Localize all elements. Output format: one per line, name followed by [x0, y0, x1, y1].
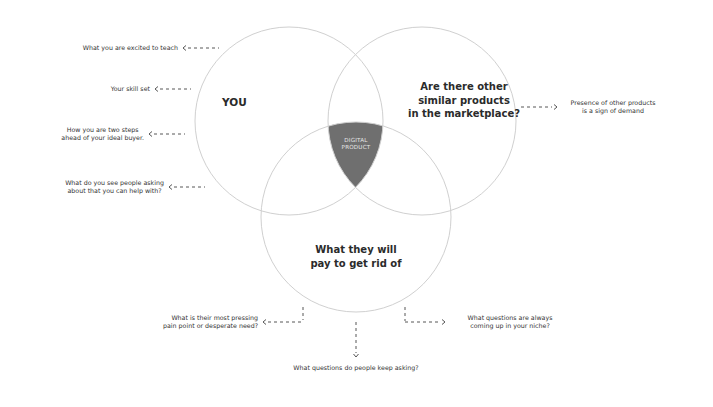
bottom-arrows [263, 307, 445, 357]
circle-label-pain: What they will pay to get rid of [296, 243, 416, 271]
note-line: ahead of your ideal buyer. [61, 134, 144, 142]
note-two-steps-ahead: How you are two steps ahead of your idea… [61, 126, 144, 143]
note-questions-in-niche: What questions are always coming up in y… [455, 314, 565, 331]
note-line: How you are two steps [61, 126, 144, 134]
intersection-label-line: DIGITAL [326, 137, 386, 144]
note-people-asking: What do you see people asking about that… [65, 179, 164, 196]
pain-label-line: pay to get rid of [296, 257, 416, 271]
note-line: What you are excited to teach [83, 44, 178, 52]
note-skill-set: Your skill set [111, 85, 150, 93]
note-line: What is their most pressing [163, 314, 258, 322]
note-pressing-pain-point: What is their most pressing pain point o… [163, 314, 258, 331]
marketplace-label-line: Are there other [395, 80, 533, 94]
note-line: Presence of other products [563, 99, 663, 107]
note-line: What questions are always [455, 314, 565, 322]
note-keep-asking: What questions do people keep asking? [276, 364, 436, 372]
note-line: about that you can help with? [65, 187, 164, 195]
note-presence-of-products: Presence of other products is a sign of … [563, 99, 663, 116]
circle-label-you: YOU [222, 96, 247, 108]
note-line: coming up in your niche? [455, 322, 565, 330]
note-line: Your skill set [111, 85, 150, 93]
intersection-label-line: PRODUCT [326, 144, 386, 151]
left-arrows [149, 46, 219, 190]
intersection-label: DIGITAL PRODUCT [326, 137, 386, 151]
note-line: What do you see people asking [65, 179, 164, 187]
note-excited-to-teach: What you are excited to teach [83, 44, 178, 52]
marketplace-label-line: similar products [395, 94, 533, 108]
venn-diagram [0, 0, 713, 407]
note-line: What questions do people keep asking? [276, 364, 436, 372]
circle-label-marketplace: Are there other similar products in the … [395, 80, 533, 121]
note-line: pain point or desperate need? [163, 322, 258, 330]
you-label-text: YOU [222, 96, 247, 108]
marketplace-label-line: in the marketplace? [395, 107, 533, 121]
note-line: is a sign of demand [563, 107, 663, 115]
pain-label-line: What they will [296, 243, 416, 257]
